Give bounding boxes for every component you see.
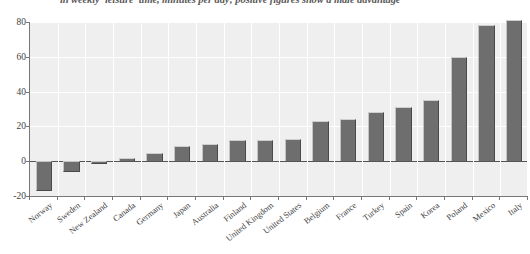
x-tick-label: Germany <box>134 200 165 227</box>
bar <box>119 158 135 161</box>
y-tick-label: 60 <box>0 52 26 62</box>
x-tick-label: Spain <box>392 200 413 220</box>
bar <box>368 112 384 161</box>
x-tick-label: Canada <box>111 200 137 224</box>
x-tick-label: Turkey <box>361 200 386 223</box>
bar <box>91 161 107 164</box>
x-tick-label: Norway <box>26 200 54 225</box>
x-tick-label: Belgium <box>301 200 330 226</box>
x-tick-label: Poland <box>444 200 469 222</box>
bar <box>285 139 301 162</box>
bar <box>451 57 467 161</box>
bar <box>202 144 218 161</box>
y-tick-label: 40 <box>0 87 26 97</box>
chart-figure: in weekly 'leisure' time, minutes per da… <box>0 0 530 254</box>
x-tick-label: Australia <box>189 200 220 227</box>
x-tick-label: France <box>334 200 358 222</box>
bar <box>229 140 245 161</box>
plot-area <box>29 22 527 196</box>
bar <box>257 140 273 161</box>
bar <box>63 161 79 171</box>
bar <box>36 161 52 191</box>
x-axis: NorwaySwedenNew ZealandCanadaGermanyJapa… <box>0 200 530 254</box>
y-tick-label: 80 <box>0 17 26 27</box>
bar <box>174 146 190 162</box>
x-tick-label: Korea <box>419 200 442 221</box>
bar-series <box>30 22 527 196</box>
bar <box>478 25 494 161</box>
y-tick-label: 20 <box>0 121 26 131</box>
bar <box>146 153 162 162</box>
y-tick-label: 0 <box>0 156 26 166</box>
bar <box>506 20 522 161</box>
x-tick-label: Italy <box>506 200 524 217</box>
bar <box>312 121 328 161</box>
x-tick-label: Mexico <box>470 200 497 224</box>
x-tick-label: Japan <box>171 200 192 220</box>
bar <box>423 100 439 161</box>
bar <box>395 107 411 161</box>
y-axis: 806040200-20 <box>0 15 26 200</box>
bar <box>340 119 356 161</box>
chart-title: in weekly 'leisure' time, minutes per da… <box>60 0 530 6</box>
